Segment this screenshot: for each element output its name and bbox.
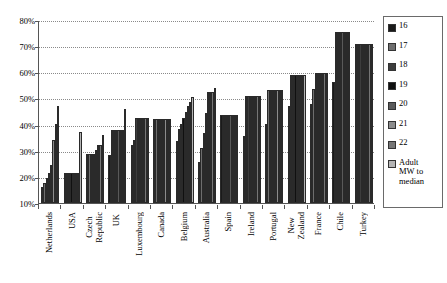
- bar: [147, 118, 149, 203]
- bar: [214, 88, 216, 203]
- x-axis-tick: [83, 205, 84, 209]
- x-axis-labels: NetherlandsUSACzech RepublicUKLuxembourg…: [38, 205, 374, 283]
- bar-series-layer: [39, 21, 374, 203]
- legend-swatch-icon: [388, 102, 396, 110]
- x-axis-label-wrapper: Belgium: [177, 212, 191, 282]
- x-axis-label-wrapper: Luxembourg: [132, 212, 146, 282]
- x-axis-tick-label: Ireland: [246, 212, 256, 236]
- bar: [124, 109, 126, 203]
- y-axis-tick-label: 50%: [1, 95, 35, 104]
- x-axis-tick: [128, 205, 129, 209]
- bar: [259, 96, 261, 203]
- bar: [236, 115, 238, 203]
- x-axis-tick-label: Canada: [156, 212, 166, 238]
- legend-item-label: Adult MW to median: [399, 158, 424, 187]
- chart-container: 10%20%30%40%50%60%70%80% NetherlandsUSAC…: [0, 0, 447, 283]
- bar: [281, 90, 283, 203]
- x-axis-label-wrapper: Spain: [221, 212, 235, 282]
- x-axis-label-wrapper: Chile: [333, 212, 347, 282]
- y-axis-tick-label: 30%: [1, 147, 35, 156]
- bar: [191, 97, 193, 203]
- cropped-title-fragment: [250, 0, 370, 8]
- x-axis-tick: [217, 205, 218, 209]
- x-axis-tick: [307, 205, 308, 209]
- x-axis-tick-label: USA: [67, 212, 77, 229]
- legend-swatch-icon: [388, 43, 396, 51]
- y-axis-tick-label: 70%: [1, 43, 35, 52]
- legend-item-label: 17: [399, 41, 408, 51]
- x-axis-tick: [240, 205, 241, 209]
- legend-item-label: 21: [399, 119, 408, 129]
- x-axis-tick-label: New Zealand: [286, 212, 306, 239]
- bar-group: [198, 21, 216, 203]
- x-axis-tick: [284, 205, 285, 209]
- legend-swatch-icon: [388, 82, 396, 90]
- y-axis-tick-label: 20%: [1, 173, 35, 182]
- legend-item-label: 19: [399, 80, 408, 90]
- bar-group: [288, 21, 306, 203]
- bar-group: [265, 21, 283, 203]
- y-axis-tick-label: 60%: [1, 69, 35, 78]
- bar-group: [41, 21, 59, 203]
- legend-item[interactable]: 22: [388, 138, 439, 149]
- bar-group: [310, 21, 328, 203]
- bar-group: [355, 21, 373, 203]
- x-axis-tick: [262, 205, 263, 209]
- x-axis-label-wrapper: USA: [65, 212, 79, 282]
- bar-group: [332, 21, 350, 203]
- legend-item[interactable]: 19: [388, 80, 439, 91]
- legend-item[interactable]: 21: [388, 119, 439, 130]
- legend-item-label: 22: [399, 138, 408, 148]
- x-axis-tick-label: Australia: [201, 212, 211, 243]
- x-axis-tick-label: Chile: [335, 212, 345, 230]
- x-axis-tick: [105, 205, 106, 209]
- bar: [169, 119, 171, 203]
- x-axis-tick: [150, 205, 151, 209]
- x-axis-tick: [172, 205, 173, 209]
- x-axis-label-wrapper: Canada: [154, 212, 168, 282]
- x-axis-tick: [329, 205, 330, 209]
- x-axis-tick-label: France: [313, 212, 323, 235]
- legend-item-label: 20: [399, 99, 408, 109]
- x-axis-label-wrapper: UK: [109, 212, 123, 282]
- legend-item[interactable]: Adult MW to median: [388, 158, 439, 187]
- legend-item[interactable]: 16: [388, 21, 439, 32]
- bar-group: [243, 21, 261, 203]
- y-axis-tick-label: 40%: [1, 121, 35, 130]
- x-axis-label-wrapper: New Zealand: [285, 212, 307, 282]
- bar: [102, 135, 104, 203]
- bar-group: [220, 21, 238, 203]
- legend-item[interactable]: 18: [388, 60, 439, 71]
- y-axis-labels: 10%20%30%40%50%60%70%80%: [0, 21, 35, 204]
- x-axis-tick-label: Belgium: [179, 212, 189, 241]
- x-axis-label-wrapper: Australia: [199, 212, 213, 282]
- x-axis-tick-label: Portugal: [268, 212, 278, 241]
- x-axis-tick: [374, 205, 375, 209]
- bar: [348, 32, 350, 203]
- legend-item[interactable]: 20: [388, 99, 439, 110]
- y-axis-tick-label: 80%: [1, 17, 35, 26]
- plot-area: [38, 21, 374, 204]
- x-axis-label-wrapper: Turkey: [356, 212, 370, 282]
- x-axis-label-wrapper: Portugal: [266, 212, 280, 282]
- x-axis-tick: [195, 205, 196, 209]
- x-axis-label-wrapper: France: [311, 212, 325, 282]
- x-axis-tick: [352, 205, 353, 209]
- legend-swatch-icon: [388, 160, 396, 168]
- x-axis-label-wrapper: Czech Republic: [83, 212, 105, 282]
- legend-swatch-icon: [388, 63, 396, 71]
- bar: [371, 44, 373, 203]
- bar-group: [64, 21, 82, 203]
- x-axis-tick-label: Czech Republic: [84, 212, 104, 243]
- x-axis-tick-label: Spain: [223, 212, 233, 231]
- bar-group: [176, 21, 194, 203]
- x-axis-label-wrapper: Ireland: [244, 212, 258, 282]
- legend-item-label: 18: [399, 60, 408, 70]
- legend-swatch-icon: [388, 121, 396, 129]
- x-axis-tick-label: Netherlands: [44, 212, 54, 253]
- x-axis-tick: [38, 205, 39, 209]
- legend-item[interactable]: 17: [388, 41, 439, 52]
- y-axis-tick-label: 10%: [1, 200, 35, 209]
- legend-swatch-icon: [388, 24, 396, 32]
- bar-group: [86, 21, 104, 203]
